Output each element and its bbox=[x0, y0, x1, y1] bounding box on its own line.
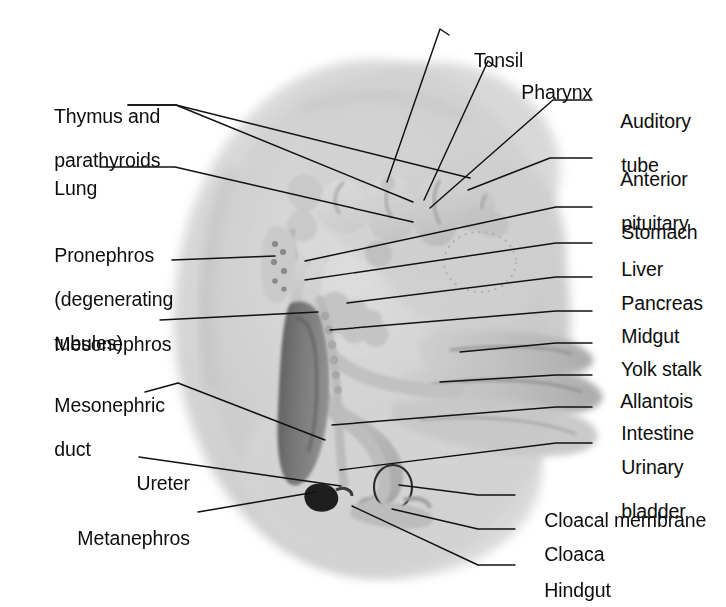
label-line: Metanephros bbox=[77, 527, 190, 549]
label-line: Urinary bbox=[621, 456, 683, 478]
label-line: Mesonephros bbox=[54, 333, 171, 355]
label-line: Hindgut bbox=[544, 579, 611, 601]
label-line: (degenerating bbox=[54, 288, 173, 310]
label-lung: Lung bbox=[33, 155, 97, 221]
label-line: Ureter bbox=[136, 472, 190, 494]
label-line: Auditory bbox=[620, 110, 691, 132]
label-metanephros: Metanephros bbox=[38, 505, 190, 571]
label-line: Lung bbox=[54, 177, 97, 199]
label-mesonephros: Mesonephros bbox=[33, 311, 171, 377]
label-line: Thymus and bbox=[54, 105, 160, 127]
label-line: Pharynx bbox=[521, 81, 592, 103]
label-pharynx: Pharynx bbox=[500, 59, 592, 125]
label-hindgut: Hindgut bbox=[523, 557, 611, 607]
label-line: Pronephros bbox=[54, 244, 154, 266]
label-line: Mesonephric bbox=[54, 394, 165, 416]
label-line: Anterior bbox=[620, 168, 687, 190]
